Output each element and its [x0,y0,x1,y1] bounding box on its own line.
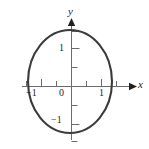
coordinate-plane-svg [0,0,149,149]
y-tick-label-plus-1: 1 [59,43,64,53]
y-axis-arrowhead [68,18,75,26]
x-tick-label-plus-1: 1 [99,88,104,98]
x-axis-label: x [138,79,143,90]
unit-circle-curve [28,30,112,133]
graph-figure: y x −1 0 1 1 −1 [0,0,149,149]
x-axis-arrowhead [129,83,137,90]
y-tick-label-minus-1: −1 [51,115,62,125]
x-tick-label-minus-1: −1 [26,88,37,98]
y-axis-label: y [68,6,73,17]
origin-label: 0 [59,88,64,98]
